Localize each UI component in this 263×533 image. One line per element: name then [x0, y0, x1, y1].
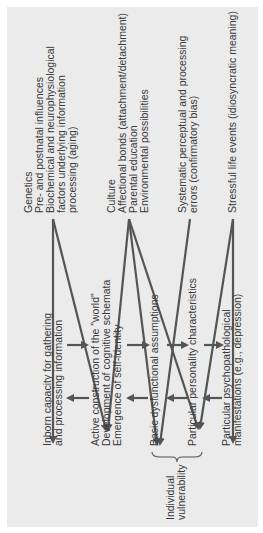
stage-line: Emergence of self-identity [111, 324, 123, 446]
diagram-canvas: Genetics Pre- and postnatal influences B… [0, 0, 263, 533]
stage-construction: Active construction of the "world" Devel… [89, 280, 123, 446]
source-social: Culture Affectional bonds (attachment/de… [105, 13, 150, 213]
stage-personality: Particular personality characteristics [186, 278, 198, 446]
stage-line: manifestations (e.g., depression) [231, 294, 243, 446]
stage-line: Basic dysfunctional assumptions [148, 294, 160, 446]
bracket-label-line: vulnerability [175, 464, 187, 520]
influence-arrows [53, 219, 233, 444]
brace-icon [152, 452, 202, 462]
stage-assumptions: Basic dysfunctional assumptions [148, 294, 160, 446]
stage-line: and processing information [52, 320, 64, 446]
stage-manifestations: Particular psychopathological manifestat… [220, 294, 243, 446]
stage-inborn: Inborn capacity for gathering and proces… [41, 313, 64, 446]
source-line: errors (confirmatory bias) [187, 96, 199, 213]
bracket-label: Individual vulnerability [164, 464, 187, 520]
stage-line: Particular personality characteristics [186, 278, 198, 446]
source-biological: Genetics Pre- and postnatal influences B… [22, 46, 78, 213]
source-life-events: Stressful life events (idiosyncratic mea… [226, 11, 238, 213]
source-cognitive-errors: Systematic perceptual and processing err… [176, 35, 199, 213]
source-line: processing (aging) [66, 127, 78, 213]
source-line: Stressful life events (idiosyncratic mea… [226, 11, 238, 213]
source-line: Environmental possibilities [138, 89, 150, 213]
